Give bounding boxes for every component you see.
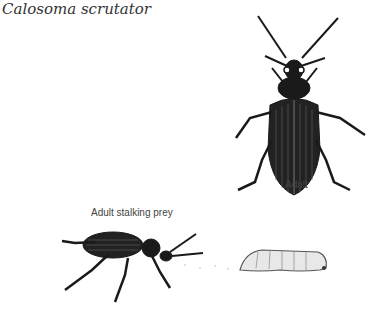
dust-trail [184, 264, 229, 270]
stalking-beetle-illustration [62, 232, 203, 302]
stalking-scene [0, 0, 378, 321]
caterpillar-illustration [240, 250, 326, 271]
